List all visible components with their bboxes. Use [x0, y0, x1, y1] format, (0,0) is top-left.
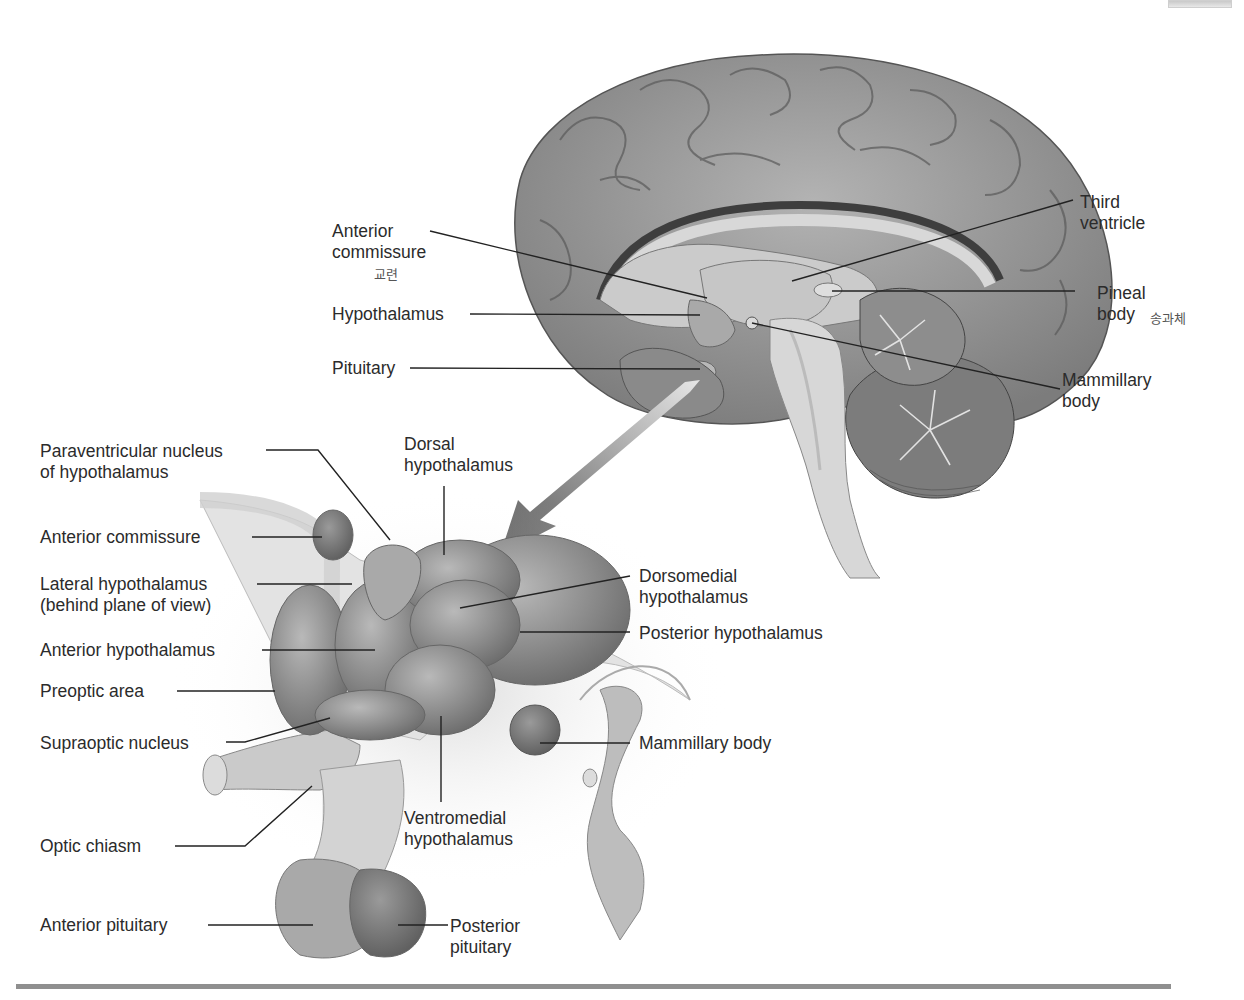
label-line: body — [1097, 304, 1146, 325]
label-paraventricular-nucleus: Paraventricular nucleus of hypothalamus — [40, 441, 223, 483]
label-pituitary: Pituitary — [332, 358, 395, 379]
label-line: hypothalamus — [639, 587, 748, 608]
brain-sagittal-section — [515, 54, 1112, 578]
label-line: Dorsal — [404, 434, 513, 455]
label-line: of hypothalamus — [40, 462, 223, 483]
label-line: Paraventricular nucleus — [40, 441, 223, 462]
label-line: body — [1062, 391, 1151, 412]
label-line: Mammillary — [1062, 370, 1151, 391]
label-lateral-hypothalamus: Lateral hypothalamus (behind plane of vi… — [40, 574, 211, 616]
label-line: Posterior — [450, 916, 520, 937]
label-line: commissure — [332, 242, 426, 263]
label-ventromedial-hypothalamus: Ventromedial hypothalamus — [404, 808, 513, 850]
label-mammillary-body-detail: Mammillary body — [639, 733, 771, 754]
label-anterior-commissure: Anterior commissure — [332, 221, 426, 263]
handwritten-note-pineal: 송과체 — [1150, 308, 1186, 327]
label-line: Ventromedial — [404, 808, 513, 829]
label-dorsal-hypothalamus: Dorsal hypothalamus — [404, 434, 513, 476]
brain-diagram — [0, 0, 1244, 1000]
label-line: Dorsomedial — [639, 566, 748, 587]
label-line: Lateral hypothalamus — [40, 574, 211, 595]
label-line: ventricle — [1080, 213, 1145, 234]
label-line: pituitary — [450, 937, 520, 958]
label-preoptic-area: Preoptic area — [40, 681, 144, 702]
bottom-divider-rule — [16, 984, 1171, 989]
label-line: Anterior — [332, 221, 426, 242]
label-line: (behind plane of view) — [40, 595, 211, 616]
label-line: hypothalamus — [404, 829, 513, 850]
label-line: Third — [1080, 192, 1145, 213]
label-optic-chiasm: Optic chiasm — [40, 836, 141, 857]
label-line: Pineal — [1097, 283, 1146, 304]
label-anterior-pituitary: Anterior pituitary — [40, 915, 167, 936]
label-third-ventricle: Third ventricle — [1080, 192, 1145, 234]
handwritten-note-commissure: 교련 — [374, 264, 398, 283]
label-pineal-body: Pineal body — [1097, 283, 1146, 325]
label-supraoptic-nucleus: Supraoptic nucleus — [40, 733, 189, 754]
label-anterior-commissure-detail: Anterior commissure — [40, 527, 200, 548]
label-posterior-pituitary: Posterior pituitary — [450, 916, 520, 958]
label-hypothalamus: Hypothalamus — [332, 304, 444, 325]
label-mammillary-body-upper: Mammillary body — [1062, 370, 1151, 412]
label-dorsomedial-hypothalamus: Dorsomedial hypothalamus — [639, 566, 748, 608]
label-anterior-hypothalamus: Anterior hypothalamus — [40, 640, 215, 661]
label-line: hypothalamus — [404, 455, 513, 476]
hypothalamus-enlarged — [170, 490, 730, 958]
label-posterior-hypothalamus: Posterior hypothalamus — [639, 623, 823, 644]
